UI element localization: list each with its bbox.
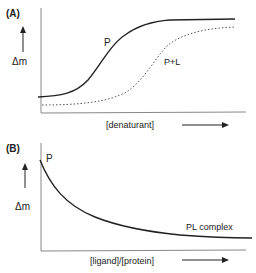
panel-a-label: (A) [6, 8, 20, 19]
panel-b: (B) Δm P PL complex [ligand]/[protein] [6, 143, 252, 266]
label-p-plus-l: P+L [164, 57, 180, 67]
panel-a: (A) Δm P P+L [denaturant] [6, 8, 246, 130]
xlabel-a: [denaturant] [106, 120, 154, 130]
curve-p [38, 19, 235, 97]
arrow-right-icon [222, 257, 229, 263]
label-p-b: P [46, 153, 53, 164]
label-pl-complex: PL complex [186, 222, 233, 232]
ylabel-a: Δm [12, 56, 27, 67]
ylabel-b: Δm [15, 201, 30, 212]
curve-p-plus-l [42, 27, 235, 105]
xlabel-b: [ligand]/[protein] [90, 256, 154, 266]
label-p-a: P [104, 37, 111, 48]
panel-b-label: (B) [6, 143, 20, 154]
x-axis-a [41, 112, 246, 113]
arrow-up-icon [20, 26, 26, 33]
arrow-right-icon [222, 122, 229, 128]
x-axis-b [41, 250, 246, 251]
arrow-up-icon [22, 163, 28, 170]
figure: (A) Δm P P+L [denaturant] (B) Δm P PL co… [0, 0, 256, 273]
